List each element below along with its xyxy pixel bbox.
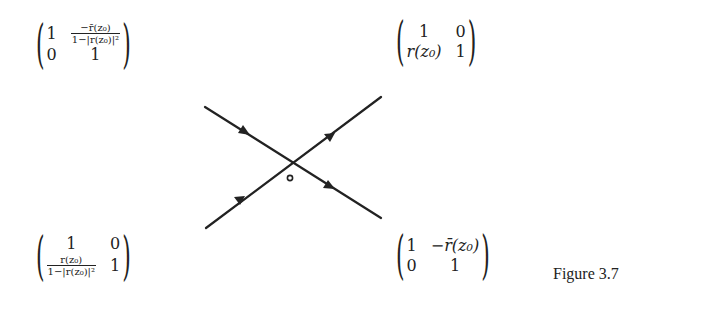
figure-caption: Figure 3.7 bbox=[553, 265, 619, 283]
matrix-fraction: −r̄(z₀) 1−|r(z₀)|² bbox=[71, 22, 120, 45]
stationary-point-icon bbox=[287, 175, 292, 180]
right-paren: ) bbox=[122, 0, 131, 95]
matrix-cell: −r̄(z₀) bbox=[431, 236, 479, 256]
left-paren: ( bbox=[396, 0, 405, 90]
matrix-cell: 1 bbox=[66, 234, 76, 254]
matrix-cell: 1 bbox=[47, 24, 57, 44]
fraction-denominator: 1−|r(z₀)|² bbox=[71, 33, 120, 45]
right-paren: ) bbox=[122, 204, 131, 307]
matrix-top-right: ( 1 0 r(z₀) 1 ) bbox=[396, 22, 476, 62]
matrix-cell: 1 bbox=[407, 236, 417, 256]
matrix-cell: r(z₀) bbox=[407, 42, 442, 62]
right-paren: ) bbox=[468, 0, 477, 90]
matrix-fraction: r(z₀) 1−|r(z₀)|² bbox=[47, 254, 96, 277]
matrix-cell: 1 bbox=[456, 42, 466, 62]
right-paren: ) bbox=[481, 208, 490, 304]
fraction-denominator: 1−|r(z₀)|² bbox=[47, 265, 96, 277]
fraction-numerator: −r̄(z₀) bbox=[79, 22, 111, 33]
matrix-cell: 0 bbox=[110, 234, 120, 254]
matrix-bottom-right: ( 1 −r̄(z₀) 0 1 ) bbox=[396, 236, 490, 276]
matrix-cell: 0 bbox=[407, 256, 417, 276]
matrix-cell: 0 bbox=[456, 22, 466, 42]
matrix-cell: 1 bbox=[90, 45, 100, 65]
contour-line-ascending bbox=[206, 97, 381, 228]
matrix-bottom-left: ( 1 0 r(z₀) 1−|r(z₀)|² 1 ) bbox=[36, 234, 131, 277]
left-paren: ( bbox=[36, 0, 45, 95]
matrix-cell: 1 bbox=[110, 256, 120, 276]
left-paren: ( bbox=[36, 204, 45, 307]
matrix-cell: 1 bbox=[450, 256, 460, 276]
left-paren: ( bbox=[396, 208, 405, 304]
matrix-cell: 0 bbox=[47, 45, 57, 65]
matrix-top-left: ( 1 −r̄(z₀) 1−|r(z₀)|² 0 1 ) bbox=[36, 22, 131, 65]
fraction-numerator: r(z₀) bbox=[59, 254, 83, 265]
matrix-cell: 1 bbox=[419, 22, 429, 42]
